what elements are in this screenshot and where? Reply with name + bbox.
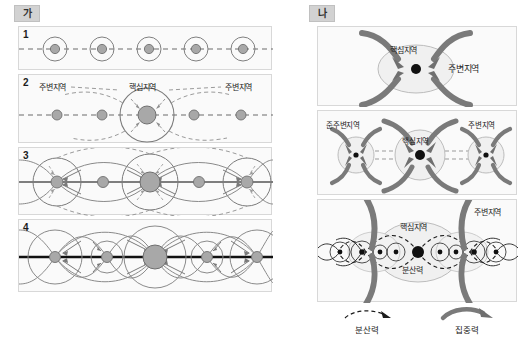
panel-na-2-label-core: 핵심지역 [402, 135, 429, 146]
panel-1: 1 [18, 26, 272, 70]
legend-item-dispersal: 분산력 [321, 305, 413, 327]
panel-3: 3 [18, 147, 272, 215]
legend-label-concentration: 집중력 [421, 323, 513, 335]
panel-3-number: 3 [23, 150, 29, 161]
panel-na-3-label-periphery: 주변지역 [474, 206, 501, 217]
panel-na-2-label-semi-periphery: 준주변지역 [326, 119, 360, 130]
figure-root: 가 나 1 [0, 0, 529, 342]
panel-na-2-label-periphery: 주변지역 [468, 119, 495, 130]
panel-na-3: 핵심지역 분산력 주변지역 [317, 199, 517, 302]
dashed-arrow-icon [321, 305, 413, 323]
legend: 분산력 집중력 [317, 305, 517, 339]
panel-2-number: 2 [23, 77, 29, 88]
panel-na-1: 핵심지역 주변지역 [317, 26, 517, 106]
panel-2: 2 주변지역 핵심지역 주변지역 [18, 74, 272, 143]
panel-2-label-core: 핵심지역 [129, 81, 156, 92]
panel-4: 4 [18, 219, 272, 292]
panel-na-1-diagram [318, 27, 518, 107]
panel-4-number: 4 [23, 222, 29, 233]
panel-2-label-right-periphery: 주변지역 [225, 81, 252, 92]
panel-na-3-label-core: 핵심지역 [400, 221, 427, 232]
panel-na-1-label-core: 핵심지역 [390, 44, 417, 55]
group-tag-na: 나 [309, 5, 335, 22]
group-tag-ga: 가 [14, 5, 40, 22]
panel-1-diagram [19, 27, 273, 71]
panel-na-3-label-dispersal: 분산력 [402, 264, 422, 275]
panel-4-diagram [19, 220, 273, 293]
panel-1-number: 1 [23, 29, 29, 40]
panel-na-1-label-periphery: 주변지역 [448, 62, 479, 75]
panel-3-diagram [19, 148, 273, 216]
legend-label-dispersal: 분산력 [321, 323, 413, 335]
panel-na-2: 준주변지역 핵심지역 주변지역 [317, 110, 517, 195]
solid-thick-arrow-icon [421, 305, 513, 323]
panel-2-label-left-periphery: 주변지역 [39, 81, 66, 92]
legend-item-concentration: 집중력 [421, 305, 513, 327]
